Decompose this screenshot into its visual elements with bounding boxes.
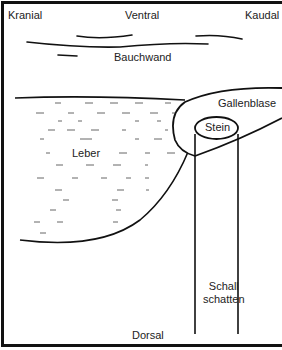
liver-texture	[34, 103, 178, 233]
label-leber: Leber	[72, 148, 100, 159]
label-ventral: Ventral	[125, 10, 159, 21]
label-gallenblase: Gallenblase	[218, 98, 276, 109]
liver-outline	[15, 97, 188, 243]
label-schatten: schatten	[203, 293, 245, 305]
label-kaudal: Kaudal	[245, 10, 279, 21]
label-schall: Schall	[209, 280, 239, 292]
label-kranial: Kranial	[8, 10, 42, 21]
label-bauchwand: Bauchwand	[114, 52, 172, 63]
label-dorsal: Dorsal	[132, 330, 164, 341]
label-schallschatten: Schall schatten	[203, 280, 245, 306]
label-stein: Stein	[205, 122, 230, 133]
